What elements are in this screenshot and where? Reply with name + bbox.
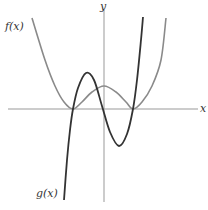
- x-axis-label: x: [200, 102, 207, 115]
- function-graph: x y f(x) g(x): [0, 0, 208, 210]
- g-label: g(x): [36, 187, 58, 200]
- y-axis-label: y: [99, 0, 107, 13]
- f-label: f(x): [4, 20, 24, 33]
